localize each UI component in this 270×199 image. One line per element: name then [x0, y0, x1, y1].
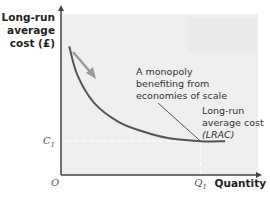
monopoly-annotation-line-1: A monopoly [136, 66, 193, 77]
monopoly-annotation-line-3: economies of scale [136, 90, 227, 101]
lrac-short-label: (LRAC) [202, 129, 234, 140]
lrac-annotation-line-2: average cost [202, 117, 264, 128]
monopoly-annotation-line-2: benefiting from [136, 78, 209, 89]
y-axis-label-line-1: Long-run [2, 11, 55, 23]
origin-label: O [51, 177, 59, 188]
x-axis-label: Quantity [215, 177, 267, 189]
y-axis-label-line-2: average [7, 24, 55, 36]
lrac-annotation-line-1: Long-run [202, 105, 244, 116]
y-axis-arrow-icon [58, 5, 64, 11]
y-axis-label-line-3: cost (£) [10, 37, 55, 49]
ghost-watermark [188, 18, 256, 52]
chart: Long-run average cost (£) Quantity O C1 … [0, 0, 270, 199]
lrac-annotation-line-3: (LRAC) [202, 129, 234, 140]
q1-tick-label: Q1 [194, 177, 207, 191]
c1-tick-label: C1 [43, 135, 55, 149]
